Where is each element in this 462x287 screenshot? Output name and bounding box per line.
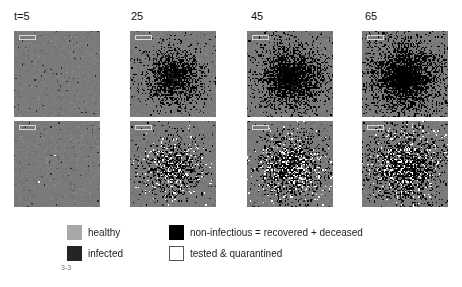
legend-label: tested & quarantined: [190, 248, 282, 259]
scale-bar: [367, 35, 384, 40]
infected-swatch: [67, 246, 82, 261]
scale-bar: [252, 125, 269, 130]
scale-bar: [19, 125, 36, 130]
legend-item-healthy: healthy: [67, 225, 120, 240]
scale-bar: [367, 125, 384, 130]
scale-bar: [19, 35, 36, 40]
simulation-panel-row2-t65: [362, 121, 448, 207]
legend-label: infected: [88, 248, 123, 259]
column-label-t45: 45: [251, 10, 263, 22]
simulation-panel-row2-t25: [130, 121, 216, 207]
scale-bar: [252, 35, 269, 40]
legend-item-non-infectious: non-infectious = recovered + deceased: [169, 225, 363, 240]
column-label-t5: t=5: [14, 10, 30, 22]
simulation-panel-row1-t25: [130, 31, 216, 117]
healthy-swatch: [67, 225, 82, 240]
legend-item-infected: infected: [67, 246, 123, 261]
simulation-panel-row2-t5: [14, 121, 100, 207]
simulation-panel-row1-t65: [362, 31, 448, 117]
legend-label: non-infectious = recovered + deceased: [190, 227, 363, 238]
quarantined-swatch: [169, 246, 184, 261]
simulation-panel-row1-t45: [247, 31, 333, 117]
simulation-panel-row1-t5: [14, 31, 100, 117]
scale-bar: [135, 35, 152, 40]
figure-number: 3-3: [61, 264, 71, 271]
legend-item-quarantined: tested & quarantined: [169, 246, 282, 261]
legend-label: healthy: [88, 227, 120, 238]
non-infectious-swatch: [169, 225, 184, 240]
scale-bar: [135, 125, 152, 130]
column-label-t25: 25: [131, 10, 143, 22]
column-label-t65: 65: [365, 10, 377, 22]
simulation-panel-row2-t45: [247, 121, 333, 207]
